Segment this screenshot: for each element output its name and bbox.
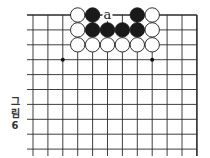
star-point-icon (61, 58, 65, 62)
white-stone-icon (115, 38, 129, 52)
star-point-icon (150, 58, 154, 62)
black-stone-icon (130, 23, 144, 37)
caption-char-1: 그 (8, 96, 22, 108)
point-labels: a (103, 7, 113, 22)
white-stone-icon (71, 8, 85, 22)
white-stone-icon (71, 23, 85, 37)
black-stone-icon (85, 23, 99, 37)
white-stone-icon (130, 38, 144, 52)
board-grid (27, 15, 197, 156)
white-stone-icon (85, 38, 99, 52)
black-stone-icon (85, 8, 99, 22)
white-stone-icon (145, 38, 159, 52)
white-stone-icon (145, 8, 159, 22)
white-stone-icon (71, 38, 85, 52)
black-stone-icon (115, 23, 129, 37)
black-stone-icon (130, 8, 144, 22)
black-stone-icon (100, 23, 114, 37)
point-label-a: a (104, 7, 112, 22)
white-stone-icon (100, 38, 114, 52)
caption-char-2: 림 (8, 108, 22, 120)
caption-number: 6 (8, 120, 22, 132)
go-board-diagram: a (0, 0, 210, 158)
figure-caption: 그 림 6 (8, 96, 22, 132)
white-stone-icon (145, 23, 159, 37)
